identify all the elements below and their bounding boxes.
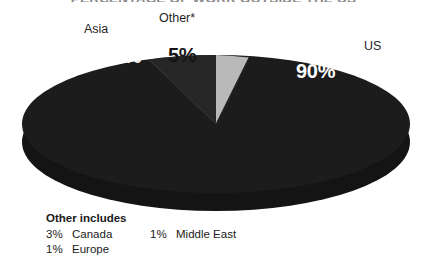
- slice-value-us: 90%: [296, 60, 335, 83]
- footnote-percent: 3%: [46, 227, 72, 242]
- footnote-heading: Other includes: [46, 211, 236, 226]
- footnote-name: Canada: [72, 227, 112, 242]
- slice-label-us: US: [364, 39, 381, 53]
- footnote-name: Middle East: [176, 227, 236, 242]
- chart-title: PERCENTAGE OF WORK OUTSIDE THE US: [0, 0, 427, 2]
- footnote-item: 1% Middle East: [150, 227, 236, 242]
- footnote-name: Europe: [72, 242, 109, 257]
- footnote-row: 1% Europe: [46, 242, 236, 257]
- footnote-item: 1% Europe: [46, 242, 150, 257]
- slice-label-asia: Asia: [84, 22, 108, 36]
- slice-value-other: 5%: [168, 44, 196, 67]
- slice-label-other: Other*: [159, 11, 195, 25]
- footnote-row: 3% Canada 1% Middle East: [46, 227, 236, 242]
- footnote-block: Other includes 3% Canada 1% Middle East …: [46, 211, 236, 257]
- pie-graphic: [20, 34, 412, 214]
- pie-chart-figure: PERCENTAGE OF WORK OUTSIDE THE US As: [0, 0, 427, 266]
- footnote-item: 3% Canada: [46, 227, 150, 242]
- footnote-percent: 1%: [46, 242, 72, 257]
- pie-svg: [20, 34, 412, 214]
- footnote-percent: 1%: [150, 227, 176, 242]
- slice-value-asia: 5%: [113, 45, 141, 68]
